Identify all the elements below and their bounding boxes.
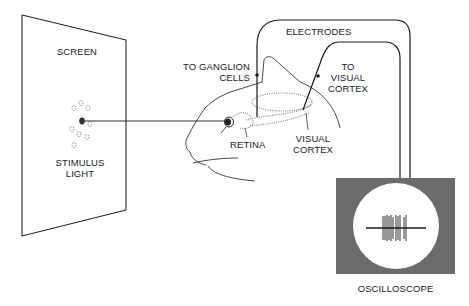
visual-cortex-label-line2: CORTEX xyxy=(291,144,335,155)
ganglion-label-line1: TO GANGLION xyxy=(160,61,250,72)
cat-eye-icon xyxy=(221,117,234,133)
to-visual-label-line3: CORTEX xyxy=(326,83,370,94)
visual-cortex-leader xyxy=(306,113,308,130)
visual-cortex-label-line1: VISUAL xyxy=(291,133,335,144)
screen-label: SCREEN xyxy=(47,46,107,57)
to-visual-label-line1: TO xyxy=(326,61,370,72)
stimulus-label-line1: STIMULUS xyxy=(48,157,112,168)
to-visual-label-line2: VISUAL xyxy=(326,72,370,83)
visual-pathway-icon xyxy=(233,93,312,128)
retina-leader xyxy=(245,128,247,137)
stimulus-label-line2: LIGHT xyxy=(48,168,112,179)
retina-label: RETINA xyxy=(230,139,265,150)
cortex-electrode-tip xyxy=(316,74,320,78)
ganglion-label-line2: CELLS xyxy=(160,72,250,83)
oscilloscope-label: OSCILLOSCOPE xyxy=(336,283,455,294)
ganglion-electrode-tip xyxy=(255,73,259,77)
electrodes-label: ELECTRODES xyxy=(286,26,351,37)
light-spot-icon xyxy=(79,118,85,125)
